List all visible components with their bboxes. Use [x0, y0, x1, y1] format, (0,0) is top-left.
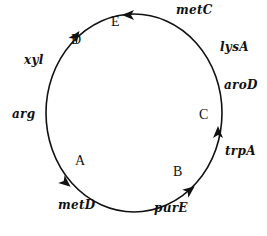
gene-label-xyl: xyl — [24, 53, 44, 67]
arrow-E-icon — [122, 10, 134, 20]
gene-label-lysA: lysA — [220, 40, 249, 54]
gene-label-trpA: trpA — [225, 144, 256, 158]
origin-label-A: A — [75, 153, 85, 169]
origin-label-C: C — [199, 107, 208, 123]
gene-label-purE: purE — [154, 201, 188, 215]
chromosome-circle-svg — [0, 0, 267, 236]
origin-label-D: D — [71, 32, 81, 48]
origin-label-B: B — [173, 164, 182, 180]
gene-label-metC: metC — [176, 3, 213, 17]
gene-label-aroD: aroD — [224, 78, 258, 92]
chromosome-map: metC lysA aroD trpA purE metD arg xyl A … — [0, 0, 267, 236]
gene-label-metD: metD — [58, 198, 95, 212]
origin-label-E: E — [111, 14, 120, 30]
gene-label-arg: arg — [12, 107, 35, 121]
